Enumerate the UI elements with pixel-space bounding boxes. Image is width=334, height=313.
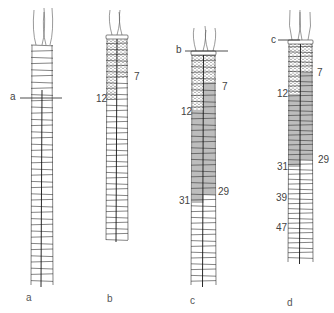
body-b-segment [106, 228, 128, 229]
body-a-segment [31, 224, 53, 225]
body-d-segment [288, 233, 313, 234]
body-c-stippled-region [204, 55, 216, 82]
body-b-segment [106, 184, 128, 185]
marker-c-12: 12 [181, 107, 192, 117]
body-a-tentacle [50, 8, 53, 45]
body-b-segment [106, 166, 128, 167]
body-d-segment [288, 189, 313, 190]
body-b-segment [106, 133, 128, 134]
body-b-segment [106, 217, 128, 218]
body-d-segment [288, 228, 313, 229]
body-a-segment [31, 206, 53, 207]
body-d-segment [288, 169, 313, 170]
body-a-segment [31, 57, 53, 58]
body-c-tentacle [205, 30, 208, 51]
body-a-left-edge [31, 45, 32, 285]
body-a-segment [31, 249, 53, 250]
body-b-segment [106, 150, 128, 151]
body-d-segment [288, 174, 313, 175]
body-d-tentacle [289, 10, 292, 40]
body-b-segment [106, 155, 128, 156]
panel-label-c: c [190, 296, 195, 306]
body-a-segment [31, 243, 53, 244]
marker-b-12: 12 [96, 94, 107, 104]
body-d-segment [288, 238, 313, 239]
body-b-segment [106, 139, 128, 140]
body-d-segment [288, 213, 313, 214]
body-b-segment [106, 195, 128, 196]
body-a-segment [31, 274, 53, 275]
body-c-left-edge [191, 55, 192, 285]
body-c-segment [191, 206, 216, 207]
marker-d-31: 31 [277, 162, 288, 172]
body-a-segment [31, 63, 53, 64]
body-b-segment [106, 211, 128, 212]
body-c-segment [191, 241, 216, 242]
marker-d-7: 7 [317, 68, 323, 78]
body-b-segment [106, 189, 128, 190]
body-c-cap [191, 51, 216, 55]
body-d-shaded-region [301, 72, 313, 160]
body-a-segment [31, 75, 53, 76]
marker-d-29: 29 [318, 155, 329, 165]
body-c-tentacle [213, 28, 216, 51]
body-a-segment [31, 237, 53, 238]
panel-label-a: a [26, 293, 32, 303]
body-c-shaded-region [192, 110, 204, 203]
body-b-tentacle [109, 10, 112, 35]
body-c-segment [191, 234, 216, 235]
body-b-segment [106, 144, 128, 145]
body-b-segment [106, 222, 128, 223]
body-a-segment [31, 51, 53, 52]
body-d-segment [288, 199, 313, 200]
body-c-right-edge [215, 55, 216, 285]
marker-c-7: 7 [222, 82, 228, 92]
body-d-segment [288, 218, 313, 219]
body-a-segment [31, 219, 53, 220]
body-c-shaded-region [204, 82, 216, 195]
body-a-segment [31, 261, 53, 262]
body-c-segment [191, 257, 216, 258]
body-b-cap [106, 35, 128, 39]
marker-d-47: 47 [276, 223, 287, 233]
body-a-segment [31, 82, 53, 83]
body-a-segment [31, 268, 53, 269]
body-c-tentacle [193, 28, 196, 51]
body-d-segment [288, 203, 313, 204]
body-a-segment [31, 181, 53, 182]
body-c-segment [191, 264, 216, 265]
body-b-segment [106, 177, 128, 178]
body-c-segment [191, 281, 216, 282]
body-a-segment [31, 256, 53, 257]
body-c-segment [191, 252, 216, 253]
body-a-segment [31, 70, 53, 71]
cut-label-c: c [271, 35, 276, 45]
marker-b-7: 7 [134, 72, 140, 82]
body-d-segment [288, 242, 313, 243]
marker-c-31: 31 [179, 196, 190, 206]
body-c-segment [191, 217, 216, 218]
body-b-segment [106, 200, 128, 201]
body-d-left-edge [288, 42, 289, 262]
body-b-tentacle [119, 10, 122, 35]
body-c-segment [191, 246, 216, 247]
body-d-segment [288, 179, 313, 180]
body-b-right-edge [127, 38, 128, 240]
body-a-segment [31, 45, 53, 46]
body-a-segment [31, 199, 53, 200]
body-a-segment [31, 231, 53, 232]
segmented-worm-diagram [0, 0, 334, 313]
body-d-segment [288, 258, 313, 259]
body-c-segment [191, 211, 216, 212]
body-a-segment [31, 187, 53, 188]
body-d-segment [288, 193, 313, 194]
body-b-segment [106, 161, 128, 162]
body-d-tentacle [308, 12, 311, 40]
body-d-segment [288, 252, 313, 253]
body-a-segment [31, 212, 53, 213]
body-a-segment [31, 281, 53, 282]
marker-c-29: 29 [218, 187, 229, 197]
body-b-stippled-region [107, 78, 117, 100]
body-b-segment [106, 206, 128, 207]
body-c-segment [191, 269, 216, 270]
